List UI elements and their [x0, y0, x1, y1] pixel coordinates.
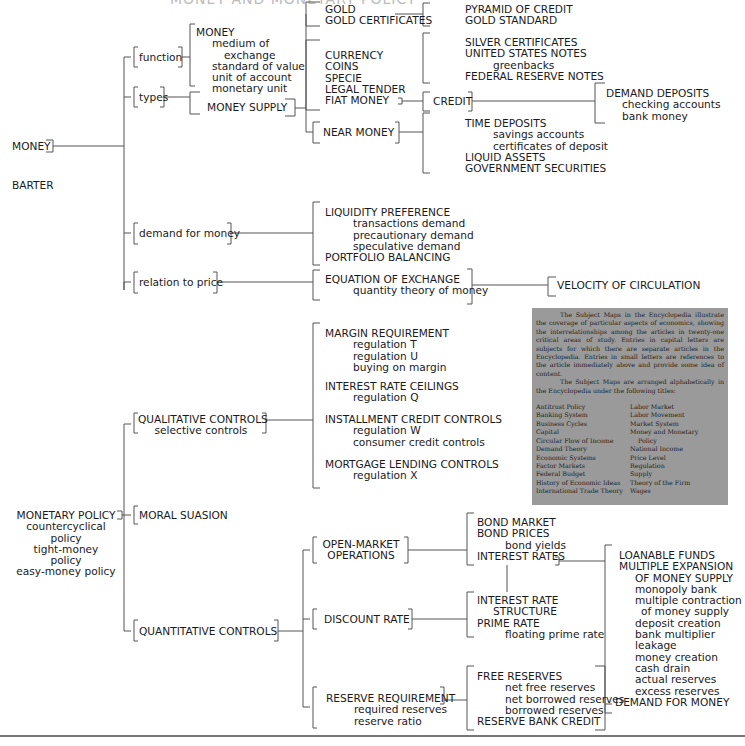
- node-gold-related: PYRAMID OF CREDIT GOLD STANDARD: [465, 4, 573, 27]
- subject-maps-infobox: The Subject Maps in the Encyclopedia ill…: [532, 308, 728, 505]
- node-monetary-policy: MONETARY POLICY countercyclical policy t…: [10, 510, 122, 578]
- node-installment-credit: INSTALLMENT CREDIT CONTROLS regulation W…: [325, 414, 502, 448]
- node-moral-suasion: MORAL SUASION: [139, 510, 228, 521]
- titles-left-column: Antitrust Policy Banking System Business…: [536, 403, 630, 495]
- bottom-rule: [0, 735, 745, 737]
- node-qualitative-controls: QUALITATIVE CONTROLS selective controls: [138, 414, 264, 437]
- node-discount-rate: DISCOUNT RATE: [324, 614, 410, 625]
- node-interest-rate-structure: INTEREST RATE STRUCTURE PRIME RATE float…: [477, 595, 604, 640]
- node-velocity: VELOCITY OF CIRCULATION: [557, 280, 700, 291]
- node-reserve-requirement: RESERVE REQUIREMENT required reserves re…: [326, 693, 455, 727]
- node-free-reserves: FREE RESERVES net free reserves net borr…: [477, 671, 624, 727]
- node-loanable-funds: LOANABLE FUNDS MULTIPLE EXPANSION OF MON…: [619, 550, 742, 708]
- node-function: function: [139, 52, 182, 63]
- node-mortgage-lending: MORTGAGE LENDING CONTROLS regulation X: [325, 459, 499, 482]
- node-interest-rate-ceilings: INTEREST RATE CEILINGS regulation Q: [325, 381, 459, 404]
- node-money-root: MONEY: [12, 141, 51, 152]
- node-margin-requirement: MARGIN REQUIREMENT regulation T regulati…: [325, 328, 449, 373]
- node-notes-group: SILVER CERTIFICATES UNITED STATES NOTES …: [465, 37, 604, 82]
- node-money-supply: MONEY SUPPLY: [207, 102, 287, 113]
- node-demand-for-money: demand for money: [139, 228, 240, 239]
- node-gold-group: GOLD GOLD CERTIFICATES: [325, 4, 432, 27]
- node-bond-market: BOND MARKET BOND PRICES bond yields INTE…: [477, 517, 566, 562]
- subject-map-titles: Antitrust Policy Banking System Business…: [536, 403, 724, 495]
- node-money-functions: MONEY medium of exchange standard of val…: [196, 27, 305, 95]
- infobox-paragraph-1: The Subject Maps in the Encyclopedia ill…: [536, 311, 724, 378]
- node-demand-deposits: DEMAND DEPOSITS checking accounts bank m…: [606, 88, 721, 122]
- node-credit: CREDIT: [433, 96, 472, 107]
- node-barter: BARTER: [12, 180, 54, 191]
- node-equation-of-exchange: EQUATION OF EXCHANGE quantity theory of …: [325, 274, 488, 297]
- node-currency-group: CURRENCY COINS SPECIE LEGAL TENDER FIAT …: [325, 50, 406, 106]
- infobox-paragraph-2: The Subject Maps are arranged alphabetic…: [536, 378, 724, 395]
- node-liquidity-preference: LIQUIDITY PREFERENCE transactions demand…: [325, 207, 474, 263]
- node-types: types: [139, 92, 168, 103]
- node-near-money-children: TIME DEPOSITS savings accounts certifica…: [465, 118, 608, 174]
- node-quantitative-controls: QUANTITATIVE CONTROLS: [139, 626, 277, 637]
- node-relation-to-price: relation to price: [139, 277, 223, 288]
- node-open-market: OPEN-MARKET OPERATIONS: [318, 539, 404, 562]
- titles-right-column: Labor Market Labor Movement Market Syste…: [630, 403, 724, 495]
- node-near-money: NEAR MONEY: [323, 127, 394, 138]
